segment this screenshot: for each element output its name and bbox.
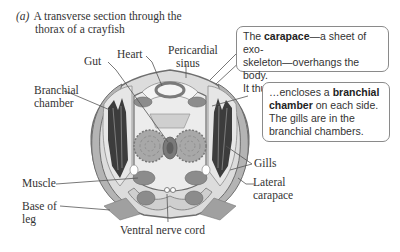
sinus-right <box>202 165 210 175</box>
branchial-callout-line-4: branchial chambers. <box>269 125 383 138</box>
label-pericardial-sinus-1: Pericardial <box>168 44 218 57</box>
sinus-left <box>130 165 138 175</box>
label-base-of-leg-2: leg <box>22 213 36 226</box>
label-base-of-leg-1: Base of <box>22 200 57 213</box>
gut-lumen <box>167 142 174 154</box>
ventral-nerve-cord-left <box>165 188 170 193</box>
label-gut: Gut <box>84 55 101 68</box>
branchial-term: branchial <box>333 86 380 98</box>
label-branchial-chamber-1: Branchial <box>34 84 79 97</box>
leg-muscle-left <box>137 191 155 205</box>
label-lateral-carapace-1: Lateral <box>253 176 286 189</box>
branchial-callout-line-2: chamber on each side. <box>269 99 383 112</box>
branchial-callout-line-1: …encloses a branchial <box>269 86 383 99</box>
carapace-callout-line-1: The carapace—a sheet of exo- <box>243 30 382 56</box>
label-lateral-carapace-2: carapace <box>253 189 293 202</box>
label-branchial-chamber-2: chamber <box>34 97 74 110</box>
carapace-term: carapace <box>264 30 310 42</box>
carapace-callout-line-2: skeleton—overhangs the body. <box>243 56 382 82</box>
heart <box>156 83 184 97</box>
leg-muscle-right <box>185 191 203 205</box>
carapace-callout: The carapace—a sheet of exo- skeleton—ov… <box>236 26 389 72</box>
muscle-top-right <box>188 97 206 107</box>
label-gills: Gills <box>254 157 276 170</box>
label-muscle: Muscle <box>22 177 56 190</box>
chamber-term: chamber <box>269 99 313 111</box>
label-pericardial-sinus-2: sinus <box>176 57 200 70</box>
label-heart: Heart <box>117 48 143 61</box>
branchial-callout-line-3: The gills are in the <box>269 112 383 125</box>
label-ventral-nerve-cord: Ventral nerve cord <box>120 224 205 237</box>
ventral-nerve-cord-right <box>171 188 176 193</box>
branchial-callout: …encloses a branchial chamber on each si… <box>262 82 390 142</box>
